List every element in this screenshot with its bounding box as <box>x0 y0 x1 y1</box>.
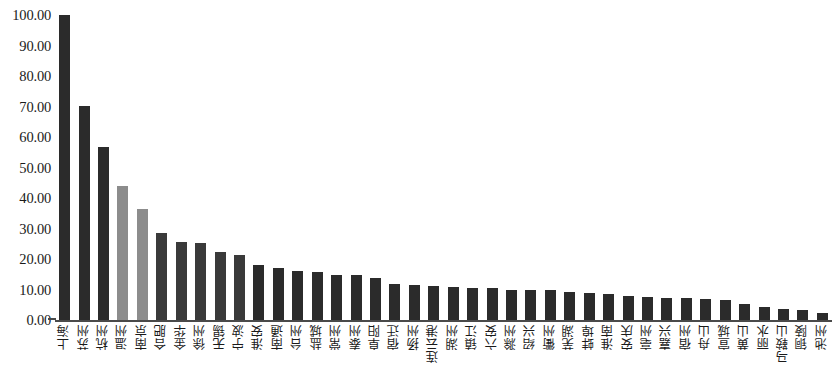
x-axis-tick-label: 上海 <box>58 324 71 350</box>
bar <box>797 310 808 320</box>
y-axis-tick-label: 10.00 <box>19 281 51 298</box>
bar <box>292 271 303 320</box>
x-axis-tick-label: 芜湖 <box>563 324 576 350</box>
x-axis-tick-label: 阜阳 <box>369 324 382 350</box>
bar <box>156 233 167 320</box>
bar <box>312 272 323 320</box>
x-axis-tick-label: 丽水 <box>758 324 771 350</box>
bar <box>215 252 226 320</box>
bar <box>59 15 70 320</box>
bar <box>370 278 381 320</box>
x-axis-tick-label: 温州 <box>116 324 129 350</box>
y-axis-tick-label: 0.00 <box>26 312 51 329</box>
y-axis-tick-label: 90.00 <box>19 37 51 54</box>
bar <box>759 307 770 320</box>
x-axis-tick-label: 台州 <box>291 324 304 350</box>
bar <box>467 288 478 320</box>
x-axis-tick-label: 蚌埠 <box>583 324 596 350</box>
y-axis-tick-label: 50.00 <box>19 159 51 176</box>
x-axis-tick-label: 亳州 <box>641 324 654 350</box>
bar <box>720 300 731 320</box>
bar <box>623 296 634 320</box>
bar <box>273 268 284 320</box>
bar <box>351 275 362 320</box>
x-axis-tick-label: 六安 <box>486 324 499 350</box>
x-axis-tick-label: 南通 <box>272 324 285 350</box>
bar <box>409 285 420 320</box>
plot-area <box>55 0 832 321</box>
x-axis-tick-label: 无锡 <box>214 324 227 350</box>
bar <box>234 255 245 320</box>
y-axis-origin-tick <box>48 318 56 320</box>
bar <box>681 298 692 320</box>
bar <box>506 290 517 320</box>
x-axis-tick-label: 衢州 <box>544 324 557 350</box>
bar <box>389 284 400 320</box>
y-axis-tick-label: 20.00 <box>19 251 51 268</box>
bar <box>545 290 556 320</box>
x-axis-tick-label: 扬州 <box>408 324 421 350</box>
x-axis-tick-label: 金华 <box>175 324 188 350</box>
x-axis-tick-label: 杭州 <box>97 324 110 350</box>
y-axis-tick-label: 30.00 <box>19 220 51 237</box>
x-axis-tick-label: 常州 <box>330 324 343 350</box>
bar <box>195 243 206 320</box>
x-axis-tick-label: 滁州 <box>505 324 518 350</box>
x-axis-tick-label: 苏州 <box>78 324 91 350</box>
bar <box>778 309 789 320</box>
x-axis-tick-label: 宿州 <box>680 324 693 350</box>
y-axis: 0.0010.0020.0030.0040.0050.0060.0070.008… <box>0 0 55 330</box>
x-axis-tick-label: 绍兴 <box>524 324 537 350</box>
x-axis-tick-label: 宿迁 <box>388 324 401 350</box>
bar <box>79 106 90 320</box>
y-axis-tick-label: 100.00 <box>12 7 51 24</box>
bar <box>584 293 595 320</box>
bar <box>739 304 750 320</box>
x-axis-tick-label: 安庆 <box>622 324 635 350</box>
x-axis-tick-label: 淮南 <box>602 324 615 350</box>
y-axis-tick-label: 80.00 <box>19 68 51 85</box>
bar <box>253 265 264 320</box>
bar <box>428 286 439 320</box>
x-axis-labels: 上海苏州杭州温州南京合肥金华徐州无锡宁波淮安南通台州盐城常州泰州阜阳宿迁扬州连云… <box>55 324 832 382</box>
x-axis-tick-label: 徐州 <box>194 324 207 350</box>
x-axis-tick-label: 铜陵 <box>796 324 809 350</box>
bar <box>117 186 128 321</box>
x-axis-tick-label: 湖州 <box>447 324 460 350</box>
x-axis-tick-label: 马鞍山 <box>777 324 790 363</box>
x-axis-tick-label: 盐城 <box>311 324 324 350</box>
x-axis-tick-label: 连云港 <box>427 324 440 363</box>
bar <box>564 292 575 320</box>
x-axis-tick-label: 嘉兴 <box>660 324 673 350</box>
x-axis-tick-label: 舟山 <box>699 324 712 350</box>
bar <box>331 275 342 320</box>
bar <box>137 209 148 320</box>
x-axis-tick-label: 合肥 <box>155 324 168 350</box>
bar <box>817 313 828 320</box>
bar <box>448 287 459 320</box>
bar <box>176 242 187 320</box>
x-axis-tick-label: 宁波 <box>233 324 246 350</box>
bar <box>98 147 109 320</box>
bar <box>525 290 536 320</box>
x-axis-tick-label: 池州 <box>816 324 829 350</box>
x-axis-baseline <box>55 320 832 322</box>
y-axis-tick-label: 70.00 <box>19 98 51 115</box>
y-axis-tick-label: 60.00 <box>19 129 51 146</box>
bar <box>487 288 498 320</box>
x-axis-tick-label: 宣城 <box>719 324 732 350</box>
x-axis-tick-label: 南京 <box>136 324 149 350</box>
x-axis-tick-label: 泰州 <box>350 324 363 350</box>
bar <box>603 294 614 320</box>
bar <box>642 297 653 320</box>
bar <box>700 299 711 320</box>
x-axis-tick-label: 黄山 <box>738 324 751 350</box>
x-axis-tick-label: 淮安 <box>252 324 265 350</box>
bar <box>661 298 672 320</box>
x-axis-tick-label: 镇江 <box>466 324 479 350</box>
bar-chart: 0.0010.0020.0030.0040.0050.0060.0070.008… <box>0 0 832 382</box>
y-axis-tick-label: 40.00 <box>19 190 51 207</box>
